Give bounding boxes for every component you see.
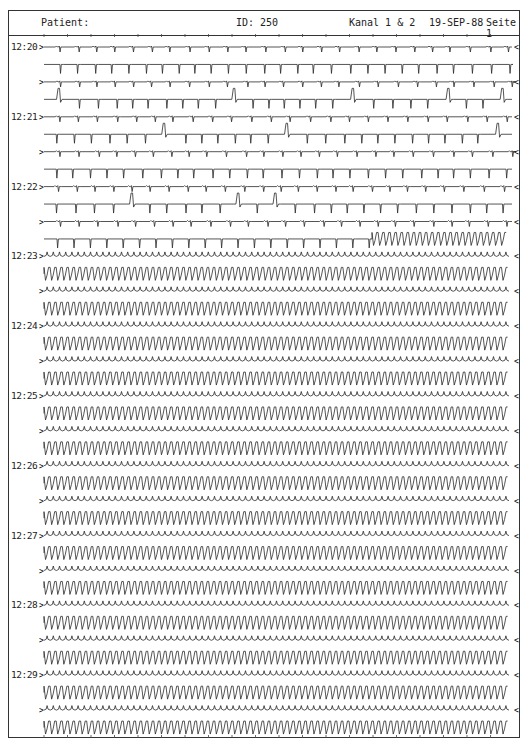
channel-2-trace xyxy=(44,686,508,699)
strip-start-marker: > xyxy=(39,183,44,192)
channel-2-trace xyxy=(44,123,512,143)
channel-2-trace xyxy=(44,232,506,248)
channel-2-trace xyxy=(44,442,508,455)
strip-end-marker: < xyxy=(514,462,519,471)
strip-start-marker: > xyxy=(39,113,44,122)
strip-start-marker: > xyxy=(39,497,44,506)
time-label: 12:25 xyxy=(11,390,37,401)
strip-end-marker: < xyxy=(514,427,519,436)
time-label: 12:26 xyxy=(11,460,37,471)
strip-end-marker: < xyxy=(514,252,519,261)
strip-start-marker: > xyxy=(39,532,44,541)
strip-start-marker: > xyxy=(39,462,44,471)
strip-start-marker: > xyxy=(39,218,44,227)
channel-1-trace xyxy=(44,252,509,257)
strip-end-marker: < xyxy=(514,287,519,296)
strip-end-marker: < xyxy=(514,322,519,331)
strip-start-marker: > xyxy=(39,392,44,401)
time-label: 12:23 xyxy=(11,250,37,261)
strip-end-marker: < xyxy=(514,392,519,401)
channel-2-trace xyxy=(44,547,508,560)
channel-1-trace xyxy=(44,81,515,87)
channel-2-trace xyxy=(44,88,512,108)
time-label: 12:24 xyxy=(11,320,37,331)
channel-1-trace xyxy=(44,116,512,122)
strip-end-marker: < xyxy=(514,497,519,506)
channel-1-trace xyxy=(44,392,509,397)
strip-end-marker: < xyxy=(514,636,519,645)
time-label: 12:22 xyxy=(11,181,37,192)
strip-end-marker: < xyxy=(514,78,519,87)
time-label: 12:29 xyxy=(11,669,37,680)
channel-2-trace xyxy=(44,169,512,178)
channel-2-trace xyxy=(44,267,508,280)
channel-2-trace xyxy=(44,372,508,385)
ecg-traces: ><><><><><><><><><><><><><><><><><><><>< xyxy=(0,0,530,748)
strip-start-marker: > xyxy=(39,567,44,576)
strip-end-marker: < xyxy=(514,567,519,576)
time-tick-marks xyxy=(44,34,491,738)
channel-1-trace xyxy=(44,671,509,676)
strip-end-marker: < xyxy=(514,671,519,680)
channel-2-trace xyxy=(44,581,508,594)
strip-start-marker: > xyxy=(39,706,44,715)
strip-start-marker: > xyxy=(39,671,44,680)
channel-1-trace xyxy=(44,322,509,327)
channel-1-trace xyxy=(44,531,509,536)
channel-1-trace xyxy=(44,151,516,157)
strip-start-marker: > xyxy=(39,636,44,645)
channel-2-trace xyxy=(44,193,512,213)
channel-1-trace xyxy=(44,357,509,362)
time-label: 12:28 xyxy=(11,599,37,610)
channel-1-trace xyxy=(44,461,509,466)
channel-1-trace xyxy=(44,221,512,227)
strip-end-marker: < xyxy=(514,113,519,122)
channel-2-trace xyxy=(44,477,508,490)
channel-1-trace xyxy=(44,287,509,292)
strip-start-marker: > xyxy=(39,601,44,610)
strip-end-marker: < xyxy=(514,706,519,715)
channel-1-trace xyxy=(44,601,509,606)
strip-end-marker: < xyxy=(514,357,519,366)
channel-2-trace xyxy=(44,64,513,73)
strip-start-marker: > xyxy=(39,357,44,366)
channel-1-trace xyxy=(44,426,509,431)
time-label: 12:20 xyxy=(11,41,37,52)
strip-start-marker: > xyxy=(39,427,44,436)
channel-1-trace xyxy=(44,46,512,52)
strip-end-marker: < xyxy=(514,532,519,541)
channel-2-trace xyxy=(44,616,508,629)
strip-end-marker: < xyxy=(514,43,519,52)
strip-end-marker: < xyxy=(514,183,519,192)
strip-start-marker: > xyxy=(39,322,44,331)
strip-start-marker: > xyxy=(39,252,44,261)
channel-2-trace xyxy=(44,512,508,525)
channel-2-trace xyxy=(44,407,508,420)
strip-start-marker: > xyxy=(39,287,44,296)
time-label: 12:27 xyxy=(11,530,37,541)
strip-end-marker: < xyxy=(514,601,519,610)
channel-1-trace xyxy=(44,496,509,501)
strip-end-marker: < xyxy=(514,218,519,227)
channel-2-trace xyxy=(44,651,508,664)
channel-1-trace xyxy=(44,186,512,192)
channel-1-trace xyxy=(44,566,509,571)
channel-2-trace xyxy=(44,302,508,315)
channel-1-trace xyxy=(44,636,509,641)
strip-start-marker: > xyxy=(39,78,44,87)
strip-start-marker: > xyxy=(39,43,44,52)
channel-1-trace xyxy=(44,706,509,711)
strip-start-marker: > xyxy=(39,148,44,157)
time-label: 12:21 xyxy=(11,111,37,122)
channel-2-trace xyxy=(44,337,508,350)
strip-end-marker: < xyxy=(514,148,519,157)
channel-2-trace xyxy=(44,721,508,734)
